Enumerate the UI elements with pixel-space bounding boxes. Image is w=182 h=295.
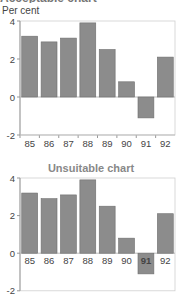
x-tick-label: 90 bbox=[121, 255, 132, 266]
bar-90 bbox=[119, 82, 135, 97]
y-tick-label: -2 bbox=[7, 130, 15, 141]
bottom-chart-title: Unsuitable chart bbox=[0, 162, 182, 174]
bar-90 bbox=[119, 238, 135, 253]
x-tick-label: 88 bbox=[83, 138, 94, 149]
bar-86 bbox=[41, 199, 57, 254]
y-tick-label: 2 bbox=[10, 54, 15, 65]
bar-92 bbox=[157, 214, 173, 253]
bottom-bar-chart: 420-28586878889909192 bbox=[0, 175, 182, 295]
x-tick-label: 87 bbox=[63, 255, 74, 266]
x-tick-label: 92 bbox=[160, 255, 171, 266]
x-tick-label: 91 bbox=[141, 255, 152, 266]
y-tick-label: 4 bbox=[10, 16, 15, 27]
bar-92 bbox=[157, 57, 173, 97]
x-tick-label: 86 bbox=[44, 138, 55, 149]
bar-89 bbox=[99, 50, 115, 98]
top-bar-chart: 420-28586878889909192 bbox=[0, 0, 182, 152]
bar-85 bbox=[22, 36, 38, 97]
x-tick-label: 88 bbox=[83, 255, 94, 266]
x-tick-label: 86 bbox=[44, 255, 55, 266]
x-tick-label: 91 bbox=[141, 138, 152, 149]
x-tick-label: 89 bbox=[102, 138, 113, 149]
y-tick-label: -2 bbox=[7, 285, 15, 295]
bar-91 bbox=[138, 97, 154, 118]
y-tick-label: 0 bbox=[10, 92, 15, 103]
bar-89 bbox=[99, 206, 115, 253]
bar-85 bbox=[22, 193, 38, 253]
x-tick-label: 92 bbox=[160, 138, 171, 149]
x-tick-label: 89 bbox=[102, 255, 113, 266]
y-tick-label: 2 bbox=[10, 210, 15, 221]
x-tick-label: 85 bbox=[24, 255, 35, 266]
x-tick-label: 85 bbox=[24, 138, 35, 149]
x-tick-label: 90 bbox=[121, 138, 132, 149]
x-tick-label: 87 bbox=[63, 138, 74, 149]
bar-87 bbox=[60, 195, 76, 253]
y-tick-label: 4 bbox=[10, 175, 15, 184]
bar-86 bbox=[41, 42, 57, 97]
bar-88 bbox=[80, 23, 96, 97]
bar-87 bbox=[60, 38, 76, 97]
bar-88 bbox=[80, 180, 96, 253]
y-tick-label: 0 bbox=[10, 248, 15, 259]
